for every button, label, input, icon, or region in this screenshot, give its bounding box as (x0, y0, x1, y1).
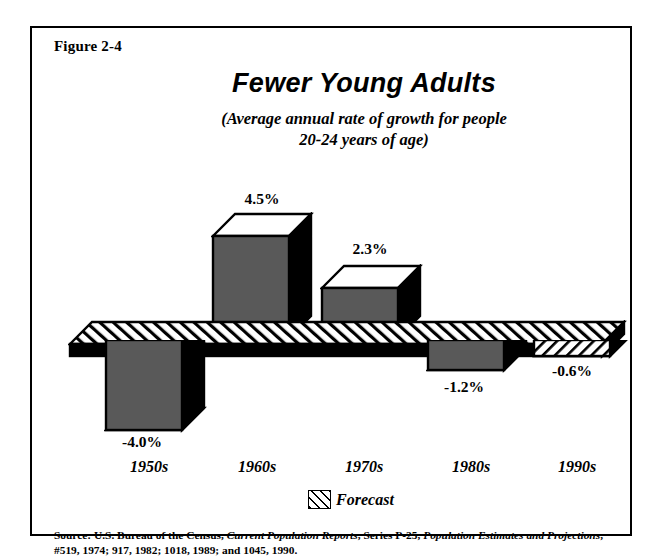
chart-legend: Forecast (32, 490, 630, 513)
source-note: Source: U.S. Bureau of the Census, Curre… (54, 528, 612, 557)
category-label-1960s: 1960s (202, 458, 312, 476)
category-label-1970s: 1970s (309, 458, 419, 476)
category-label-1990s: 1990s (522, 458, 632, 476)
value-label-1990s: -0.6% (522, 362, 622, 380)
plot-area: -4.0% 4.5% 2.3% -1.2% -0.6% 1950s 1960s … (32, 28, 630, 534)
source-prefix: Source: U.S. Bureau of the Census, (54, 529, 224, 541)
legend-entry-forecast: Forecast (308, 490, 394, 509)
value-label-1970s: 2.3% (320, 240, 420, 258)
category-label-1980s: 1980s (416, 458, 526, 476)
legend-swatch-forecast-icon (308, 490, 331, 509)
figure-frame: Figure 2-4 Fewer Young Adults (Average a… (30, 26, 632, 536)
source-middle: , Series P-25, (358, 529, 421, 541)
source-italic-publication-2: Population Estimates and Projections (423, 529, 600, 541)
value-label-1950s: -4.0% (92, 433, 192, 451)
legend-label-forecast: Forecast (336, 491, 394, 509)
value-label-1980s: -1.2% (414, 378, 514, 396)
category-label-1950s: 1950s (94, 458, 204, 476)
value-label-1960s: 4.5% (212, 190, 312, 208)
source-italic-publication-1: Current Population Reports (227, 529, 358, 541)
